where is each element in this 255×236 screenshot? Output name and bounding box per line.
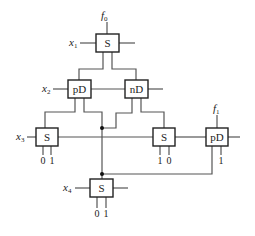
diagram-canvas: S pD nD S S pD S f0 x1 x2 x3 f1 x4 0 1 1… [0, 0, 255, 236]
input-label-x4: x4 [62, 181, 72, 195]
node-label: nD [130, 83, 144, 95]
circuit-diagram: S pD nD S S pD S f0 x1 x2 x3 f1 x4 0 1 1… [0, 0, 255, 236]
terminal-value: 1 [104, 208, 109, 219]
output-label-f0: f0 [101, 9, 108, 23]
junction-dot [100, 172, 104, 176]
terminal-value: 0 [41, 155, 46, 166]
node-s-top: S [96, 34, 119, 52]
terminal-value: 0 [167, 155, 172, 166]
terminal-value: 1 [50, 155, 55, 166]
node-s-right: S [153, 128, 175, 146]
terminal-value: 1 [158, 155, 163, 166]
input-label-x3: x3 [15, 130, 25, 144]
node-label: S [104, 37, 110, 49]
terminal-value: 0 [95, 208, 100, 219]
node-s-bottom: S [90, 179, 113, 197]
terminal-value: 1 [219, 155, 224, 166]
node-label: pD [73, 83, 87, 95]
input-label-x1: x1 [68, 36, 78, 50]
node-s-left: S [36, 128, 58, 146]
node-pd-left: pD [68, 80, 91, 98]
node-nd-mid: nD [125, 80, 148, 98]
wires [27, 22, 240, 208]
node-label: S [44, 131, 50, 143]
node-label: S [161, 131, 167, 143]
node-label: S [98, 182, 104, 194]
node-label: pD [210, 131, 224, 143]
input-label-x2: x2 [41, 82, 51, 96]
node-pd-right: pD [206, 128, 228, 146]
junction-dot [100, 126, 104, 130]
output-label-f1: f1 [213, 102, 220, 116]
